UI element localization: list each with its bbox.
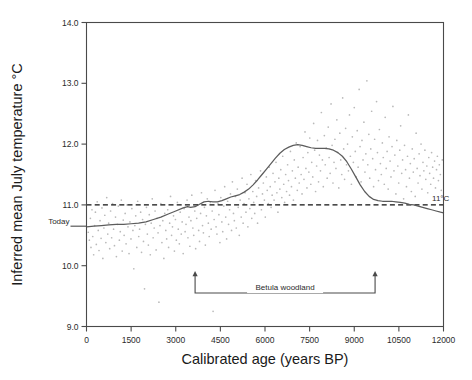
data-point	[103, 227, 105, 229]
data-point	[146, 233, 148, 235]
data-point	[148, 214, 150, 216]
data-point	[177, 202, 179, 204]
data-point	[210, 228, 212, 230]
data-point	[153, 227, 155, 229]
data-point	[324, 135, 326, 137]
data-point	[151, 198, 153, 200]
data-point	[175, 219, 177, 221]
data-point	[179, 211, 181, 213]
data-point	[318, 181, 320, 183]
data-point	[313, 123, 315, 125]
data-point	[280, 169, 282, 171]
data-point	[250, 174, 252, 176]
data-point	[310, 183, 312, 185]
data-point	[130, 238, 132, 240]
data-point	[198, 230, 200, 232]
data-point	[345, 127, 347, 129]
data-point	[249, 208, 251, 210]
data-point	[227, 200, 229, 202]
data-point	[119, 239, 121, 241]
data-point	[311, 161, 313, 163]
data-point	[256, 196, 258, 198]
data-point	[142, 219, 144, 221]
data-point	[437, 155, 439, 157]
data-point	[231, 230, 233, 232]
data-point	[166, 238, 168, 240]
data-point	[144, 288, 146, 290]
x-tick-label: 1500	[122, 335, 141, 345]
data-point	[128, 253, 130, 255]
data-point	[116, 256, 118, 258]
data-point	[120, 199, 122, 201]
data-point	[340, 159, 342, 161]
data-point	[95, 211, 97, 213]
data-point	[368, 134, 370, 136]
data-point	[114, 245, 116, 247]
data-point	[168, 247, 170, 249]
data-point	[363, 121, 365, 123]
data-point	[111, 237, 113, 239]
data-point	[422, 161, 424, 163]
data-point	[351, 183, 353, 185]
data-point	[314, 149, 316, 151]
data-point	[375, 169, 377, 171]
data-point	[380, 163, 382, 165]
y-tick-label: 14.0	[62, 18, 79, 28]
data-point	[361, 140, 363, 142]
data-point	[357, 166, 359, 168]
data-point	[274, 181, 276, 183]
data-point	[192, 227, 194, 229]
data-point	[431, 152, 433, 154]
data-point	[287, 164, 289, 166]
data-point	[347, 143, 349, 145]
data-point	[93, 254, 95, 256]
data-point	[140, 211, 142, 213]
data-point	[411, 148, 413, 150]
reference-temperature-label: 11°C	[432, 194, 450, 203]
data-point	[342, 97, 344, 99]
data-point	[428, 157, 430, 159]
data-point	[134, 225, 136, 227]
data-point	[387, 188, 389, 190]
data-point	[158, 301, 160, 303]
data-point	[177, 228, 179, 230]
data-point	[107, 233, 109, 235]
data-point	[403, 198, 405, 200]
data-point	[97, 230, 99, 232]
data-point	[353, 107, 355, 109]
data-point	[159, 225, 161, 227]
data-point	[215, 226, 217, 228]
data-point	[406, 186, 408, 188]
data-point	[253, 202, 255, 204]
data-point	[181, 221, 183, 223]
data-point	[246, 183, 248, 185]
data-point	[224, 186, 226, 188]
data-point	[435, 187, 437, 189]
data-point	[329, 172, 331, 174]
data-point	[101, 207, 103, 209]
data-point	[427, 192, 429, 194]
data-point	[88, 239, 90, 241]
data-point	[284, 202, 286, 204]
data-point	[401, 172, 403, 174]
data-point	[251, 217, 253, 219]
data-point	[365, 153, 367, 155]
data-point	[278, 177, 280, 179]
data-point	[299, 146, 301, 148]
data-point	[335, 168, 337, 170]
data-point	[104, 214, 106, 216]
data-point	[167, 209, 169, 211]
data-point	[165, 230, 167, 232]
data-point	[216, 233, 218, 235]
data-point	[265, 176, 267, 178]
data-point	[225, 216, 227, 218]
data-point	[424, 149, 426, 151]
data-point	[238, 234, 240, 236]
data-point	[258, 187, 260, 189]
data-point	[396, 140, 398, 142]
data-point	[305, 168, 307, 170]
data-point	[264, 199, 266, 201]
data-point	[138, 236, 140, 238]
data-point	[398, 182, 400, 184]
data-point	[234, 220, 236, 222]
